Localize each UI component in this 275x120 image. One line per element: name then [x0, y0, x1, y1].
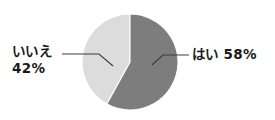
pie-label-no-percent: 42%	[12, 60, 52, 77]
pie-label-yes-text: はい 58%	[192, 46, 257, 62]
pie-label-no-name: いいえ	[12, 43, 52, 60]
pie-label-no: いいえ 42%	[12, 43, 52, 77]
pie-label-yes: はい 58%	[192, 46, 257, 63]
pie-chart-figure: いいえ 42% はい 58%	[0, 0, 275, 120]
